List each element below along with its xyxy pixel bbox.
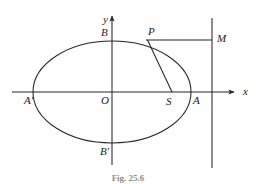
segment-sp	[148, 40, 173, 92]
figure-caption: Fig. 25.6	[0, 173, 256, 183]
label-point-p: P	[148, 26, 155, 37]
label-point-a: A	[193, 95, 200, 106]
label-point-b: B	[101, 27, 108, 38]
label-focus-s: S	[166, 96, 172, 107]
label-point-b-prime: B'	[100, 146, 109, 157]
label-point-a-prime: A'	[24, 95, 33, 106]
label-x-axis: x	[243, 86, 248, 97]
label-y-axis: y	[103, 14, 108, 25]
label-point-m: M	[217, 33, 226, 44]
figure-container: y x B B' P M A' O S A Fig. 25.6	[0, 0, 256, 184]
label-origin: O	[101, 95, 109, 106]
geometry-diagram	[0, 0, 256, 184]
